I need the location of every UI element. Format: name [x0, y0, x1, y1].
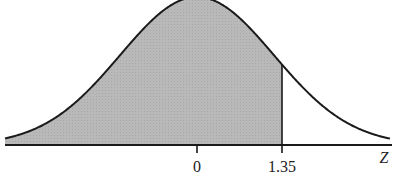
axis-label-z: Z — [380, 149, 390, 166]
normal-curve-chart: 0 1.35 Z — [0, 0, 403, 184]
tick-label-0: 0 — [193, 158, 201, 175]
tick-label-1-35: 1.35 — [268, 158, 296, 175]
